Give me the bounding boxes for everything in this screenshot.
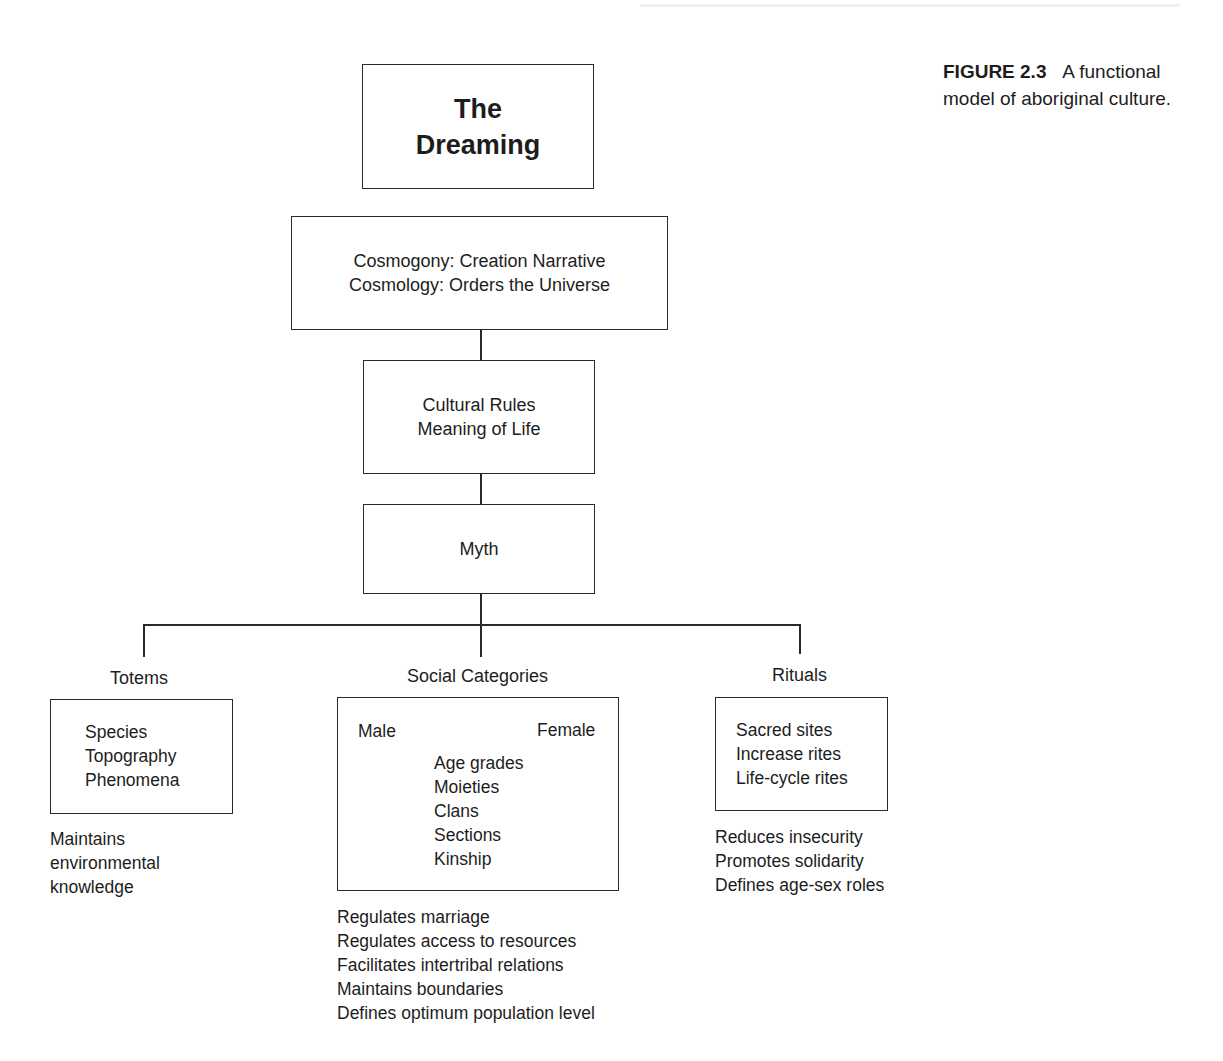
- totems-title: Totems: [110, 666, 168, 690]
- social-categories-box: Male Female Age grades Moieties Clans Se…: [337, 697, 619, 891]
- cosmos-box: Cosmogony: Creation Narrative Cosmology:…: [291, 216, 668, 330]
- figure-caption: FIGURE 2.3 A functional model of aborigi…: [943, 58, 1171, 112]
- dreaming-title-line2: Dreaming: [416, 127, 541, 163]
- cultural-rules-box: Cultural Rules Meaning of Life: [363, 360, 595, 474]
- social-item: Sections: [434, 823, 524, 847]
- totem-function: environmental: [50, 851, 160, 875]
- myth-label: Myth: [459, 537, 498, 561]
- social-function: Defines optimum population level: [337, 1001, 595, 1025]
- totems-items: Species Topography Phenomena: [85, 720, 179, 792]
- totems-functions: Maintains environmental knowledge: [50, 827, 160, 899]
- totem-item: Species: [85, 720, 179, 744]
- rituals-title: Rituals: [772, 663, 827, 687]
- ritual-function: Defines age-sex roles: [715, 873, 884, 897]
- ritual-function: Reduces insecurity: [715, 825, 884, 849]
- ritual-item: Life-cycle rites: [736, 766, 848, 790]
- social-items: Age grades Moieties Clans Sections Kinsh…: [434, 751, 524, 871]
- dreaming-title-line1: The: [454, 91, 502, 127]
- rituals-box: Sacred sites Increase rites Life-cycle r…: [715, 697, 888, 811]
- rituals-items: Sacred sites Increase rites Life-cycle r…: [736, 718, 848, 790]
- male-label: Male: [358, 719, 396, 743]
- social-function: Maintains boundaries: [337, 977, 595, 1001]
- caption-line1: A functional: [1062, 61, 1160, 82]
- cosmogony-line: Cosmogony: Creation Narrative: [353, 249, 605, 273]
- totem-function: Maintains: [50, 827, 160, 851]
- connector-totems: [143, 624, 145, 657]
- social-functions: Regulates marriage Regulates access to r…: [337, 905, 595, 1025]
- dreaming-box: The Dreaming: [362, 64, 594, 189]
- ritual-function: Promotes solidarity: [715, 849, 884, 873]
- social-item: Moieties: [434, 775, 524, 799]
- social-categories-title: Social Categories: [407, 664, 548, 688]
- connector-rituals: [799, 624, 801, 654]
- totems-box: Species Topography Phenomena: [50, 699, 233, 814]
- rituals-functions: Reduces insecurity Promotes solidarity D…: [715, 825, 884, 897]
- meaning-of-life-line: Meaning of Life: [417, 417, 540, 441]
- clipped-running-header: [640, 0, 1180, 7]
- social-item: Age grades: [434, 751, 524, 775]
- totem-item: Phenomena: [85, 768, 179, 792]
- totem-item: Topography: [85, 744, 179, 768]
- figure-number: FIGURE 2.3: [943, 61, 1046, 82]
- myth-box: Myth: [363, 504, 595, 594]
- caption-line2: model of aboriginal culture.: [943, 85, 1171, 112]
- social-function: Regulates access to resources: [337, 929, 595, 953]
- social-function: Facilitates intertribal relations: [337, 953, 595, 977]
- connector-cosmos-rules: [480, 329, 482, 361]
- connector-rules-myth: [480, 473, 482, 505]
- ritual-item: Increase rites: [736, 742, 848, 766]
- social-item: Clans: [434, 799, 524, 823]
- female-label: Female: [537, 718, 595, 742]
- branch-line: [143, 624, 800, 626]
- totem-function: knowledge: [50, 875, 160, 899]
- ritual-item: Sacred sites: [736, 718, 848, 742]
- cosmology-line: Cosmology: Orders the Universe: [349, 273, 610, 297]
- social-item: Kinship: [434, 847, 524, 871]
- cultural-rules-line: Cultural Rules: [422, 393, 535, 417]
- social-function: Regulates marriage: [337, 905, 595, 929]
